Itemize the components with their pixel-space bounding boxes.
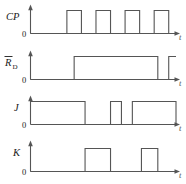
rd-signal-label: R [4, 57, 12, 68]
j-zero-label: 0 [22, 120, 26, 130]
rd-subscript-label: D [13, 63, 18, 71]
j-signal-label: J [14, 102, 20, 113]
rd-signal-label-group: R D [4, 57, 18, 72]
timing-diagram-svg: CP 0 t R D 0 t [0, 0, 186, 184]
waveform-row-k: K 0 t [12, 141, 182, 181]
j-waveform-path [31, 102, 177, 125]
k-vertical-axis-arrow [28, 141, 33, 147]
waveform-row-cp: CP 0 t [6, 5, 182, 43]
k-zero-label: 0 [22, 167, 26, 177]
rd-vertical-axis-arrow [28, 51, 33, 57]
rd-zero-label: 0 [22, 75, 26, 85]
k-waveform-path [31, 149, 177, 172]
cp-vertical-axis-arrow [28, 5, 33, 11]
cp-waveform-path [31, 11, 177, 34]
waveform-row-j: J 0 t [14, 96, 182, 134]
rd-waveform-path [31, 57, 177, 80]
k-time-axis-label: t [179, 170, 182, 180]
j-vertical-axis-arrow [28, 96, 33, 102]
k-signal-label: K [12, 147, 21, 158]
waveform-row-rd: R D 0 t [4, 51, 182, 89]
rd-time-axis-label: t [179, 78, 182, 88]
cp-time-axis-label: t [179, 32, 182, 42]
timing-diagram-figure: CP 0 t R D 0 t [0, 0, 186, 184]
cp-signal-label: CP [6, 11, 20, 22]
j-time-axis-label: t [179, 123, 182, 133]
cp-zero-label: 0 [22, 29, 26, 39]
